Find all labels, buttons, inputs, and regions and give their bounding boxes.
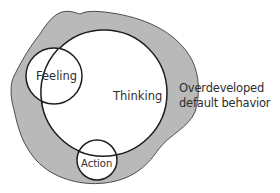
region-label-line-1: Overdeveloped <box>179 81 270 96</box>
thinking-label: Thinking <box>112 89 162 103</box>
diagram: Feeling Thinking Action Overdeveloped de… <box>0 0 280 193</box>
region-label-line-2: default behavior <box>179 96 270 111</box>
feeling-label: Feeling <box>36 69 77 83</box>
action-label: Action <box>81 158 112 169</box>
overdeveloped-default-behavior-label: Overdeveloped default behavior <box>179 81 270 111</box>
